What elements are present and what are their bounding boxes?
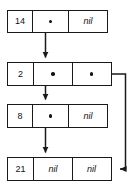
node-21-left-pointer-cell: nil — [34, 158, 73, 180]
node-pointer-diagram: 14 nil 2 8 nil 21 — [0, 0, 138, 189]
node-2-key-cell: 2 — [8, 63, 34, 85]
node-14-right-pointer-cell: nil — [69, 11, 107, 32]
node-14[interactable]: 14 nil — [7, 10, 108, 33]
node-21-key-label: 21 — [15, 165, 25, 174]
node-21-right-pointer-cell: nil — [73, 158, 110, 180]
node-8-left-pointer-cell[interactable] — [33, 105, 69, 127]
node-21[interactable]: 21 nil nil — [7, 157, 112, 181]
node-14-key-label: 14 — [15, 17, 25, 26]
node-8-key-cell: 8 — [8, 105, 33, 127]
node-8-key-label: 8 — [17, 112, 22, 121]
node-2[interactable]: 2 — [7, 62, 112, 86]
node-14-left-pointer-cell[interactable] — [33, 11, 69, 32]
node-21-right-nil-label: nil — [87, 165, 96, 174]
node-21-key-cell: 21 — [8, 158, 34, 180]
node-8-right-nil-label: nil — [83, 112, 92, 121]
node-14-right-nil-label: nil — [83, 17, 92, 26]
node-2-left-pointer-cell[interactable] — [34, 63, 73, 85]
node-8-right-pointer-cell: nil — [69, 105, 107, 127]
node-2-key-label: 2 — [18, 70, 23, 79]
node-2-right-pointer-cell[interactable] — [73, 63, 110, 85]
node-8[interactable]: 8 nil — [7, 104, 108, 128]
node-14-key-cell: 14 — [8, 11, 33, 32]
node-21-left-nil-label: nil — [48, 165, 57, 174]
